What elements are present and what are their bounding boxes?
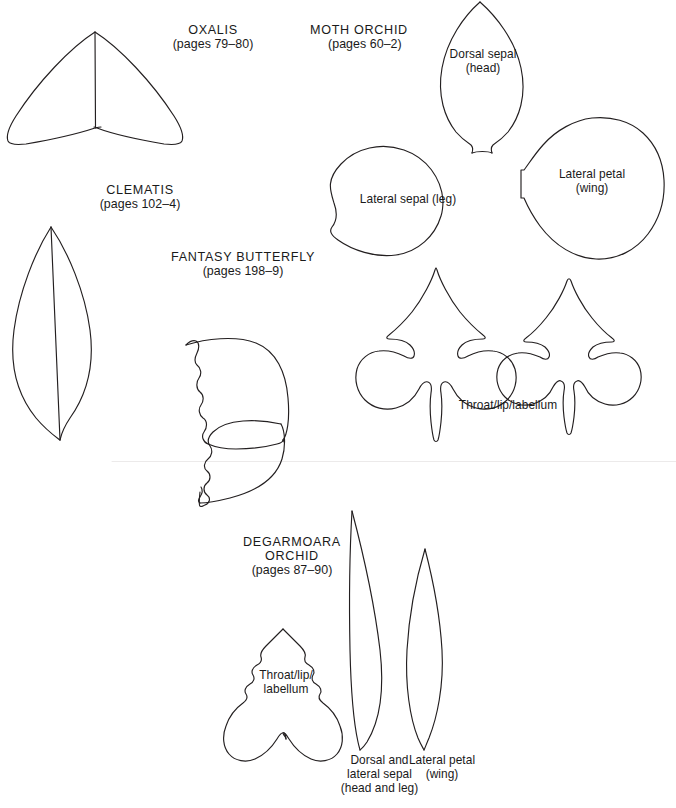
label-moth-dorsal-sepal: Dorsal sepal (head) xyxy=(413,47,553,75)
label-clematis: CLEMATIS (pages 102–4) xyxy=(60,183,220,211)
butterfly-pages: (pages 198–9) xyxy=(149,264,337,278)
clematis-pages: (pages 102–4) xyxy=(60,197,220,211)
label-degarmoara-throat: Throat/lip/ labellum xyxy=(226,668,346,696)
moth-dorsal-sepal-line1: Dorsal sepal xyxy=(413,47,553,61)
label-moth-lateral-sepal: Lateral sepal (leg) xyxy=(329,192,487,206)
label-moth-throat: Throat/lip/labellum xyxy=(443,398,573,412)
label-oxalis: OXALIS (pages 79–80) xyxy=(133,23,293,51)
degarmoara-heading-line1: DEGARMOARA xyxy=(219,535,365,549)
butterfly-heading: FANTASY BUTTERFLY xyxy=(149,250,337,264)
moth-dorsal-sepal-line2: (head) xyxy=(413,61,553,75)
moth-lateral-petal-line1: Lateral petal xyxy=(531,167,653,181)
degarmoara-throat-line1: Throat/lip/ xyxy=(226,668,346,682)
degarmoara-petal-line1: Lateral petal xyxy=(386,753,498,767)
label-degarmoara-orchid: DEGARMOARA ORCHID (pages 87–90) xyxy=(219,535,365,577)
label-degarmoara-petal: Lateral petal (wing) xyxy=(386,753,498,781)
shape-moth-throat-left xyxy=(356,268,516,442)
shape-butterfly-lower-wing xyxy=(199,421,285,507)
template-sheet: OXALIS (pages 79–80) CLEMATIS (pages 102… xyxy=(0,0,676,808)
oxalis-pages: (pages 79–80) xyxy=(133,37,293,51)
degarmoara-sepal-line3: (head and leg) xyxy=(319,781,440,795)
degarmoara-petal-line2: (wing) xyxy=(386,767,498,781)
label-moth-lateral-petal: Lateral petal (wing) xyxy=(531,167,653,195)
degarmoara-pages: (pages 87–90) xyxy=(219,563,365,577)
degarmoara-heading-line2: ORCHID xyxy=(219,549,365,563)
oxalis-heading: OXALIS xyxy=(133,23,293,37)
shape-butterfly-upper-wing xyxy=(186,339,289,449)
moth-lateral-sepal-line1: Lateral sepal (leg) xyxy=(329,192,487,206)
shape-clematis xyxy=(13,227,92,440)
shape-degarmoara-petal xyxy=(407,549,443,750)
moth-orchid-heading: MOTH ORCHID xyxy=(310,23,458,37)
moth-throat-line1: Throat/lip/labellum xyxy=(443,398,573,412)
moth-lateral-petal-line2: (wing) xyxy=(531,181,653,195)
degarmoara-throat-line2: labellum xyxy=(226,682,346,696)
clematis-heading: CLEMATIS xyxy=(60,183,220,197)
label-fantasy-butterfly: FANTASY BUTTERFLY (pages 198–9) xyxy=(149,250,337,278)
